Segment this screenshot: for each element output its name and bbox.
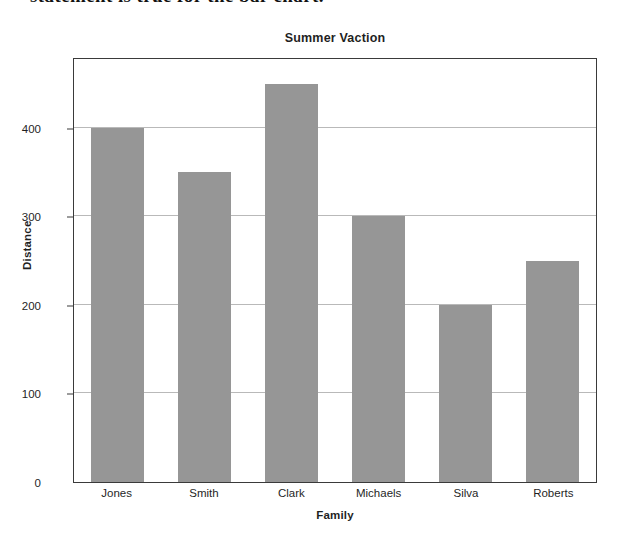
y-axis-title: Distance: [21, 220, 33, 270]
plot-area: [73, 58, 597, 483]
bar[interactable]: [265, 84, 319, 482]
bar[interactable]: [91, 128, 145, 482]
chart-title: Summer Vaction: [73, 31, 597, 45]
bar-slot: [509, 59, 596, 482]
x-axis-tick-label: Silva: [422, 487, 509, 499]
x-axis-tick-label: Clark: [248, 487, 335, 499]
bar[interactable]: [439, 305, 493, 482]
bar-slot: [422, 59, 509, 482]
x-axis-tick-labels: JonesSmithClarkMichaelsSilvaRoberts: [73, 487, 597, 499]
bar[interactable]: [352, 216, 406, 482]
bar-chart-figure: Summer Vaction 0100200300400 Distance Jo…: [0, 0, 625, 547]
bar-slot: [74, 59, 161, 482]
x-axis-tick-label: Smith: [160, 487, 247, 499]
x-axis-tick-label: Jones: [73, 487, 160, 499]
bar[interactable]: [526, 261, 580, 482]
y-axis-tick-label: 200: [22, 300, 41, 312]
bar-slot: [335, 59, 422, 482]
x-axis-tick-label: Roberts: [510, 487, 597, 499]
bar-slot: [248, 59, 335, 482]
y-axis-tick-label: 100: [22, 388, 41, 400]
bar-slot: [161, 59, 248, 482]
y-axis: 0100200300400: [0, 0, 73, 547]
x-axis-tick-label: Michaels: [335, 487, 422, 499]
x-axis-title: Family: [73, 509, 597, 521]
y-axis-tick-label: 400: [22, 123, 41, 135]
bars-layer: [74, 59, 596, 482]
bar[interactable]: [178, 172, 232, 482]
y-axis-tick-label: 0: [35, 477, 41, 489]
